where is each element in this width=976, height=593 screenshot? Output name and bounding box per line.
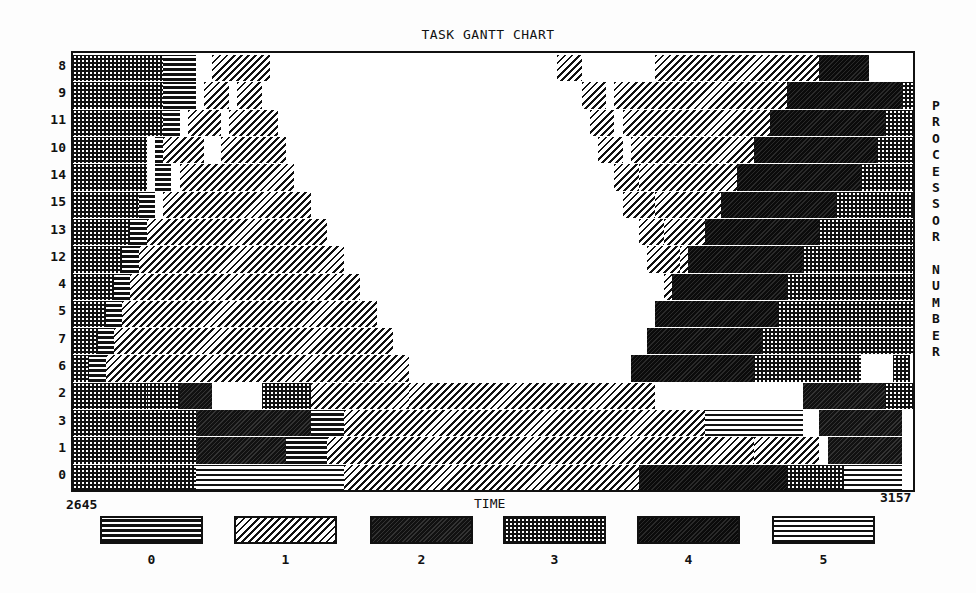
task-bar	[655, 192, 721, 218]
y-tick-label: 5	[22, 303, 66, 318]
task-bar	[409, 383, 655, 409]
task-bar	[787, 82, 902, 108]
y-axis-title-letter: R	[928, 114, 944, 130]
task-bar	[196, 465, 344, 491]
task-bar	[623, 110, 771, 136]
y-tick-label: 9	[22, 85, 66, 100]
task-bar	[614, 164, 639, 190]
task-bar	[212, 55, 269, 81]
legend-label: 5	[772, 552, 875, 567]
y-tick-label: 10	[22, 140, 66, 155]
plot-area	[71, 51, 915, 492]
y-tick-label: 13	[22, 222, 66, 237]
task-bar	[204, 82, 229, 108]
task-bar	[163, 82, 196, 108]
task-bar	[73, 192, 139, 218]
task-bar	[787, 274, 913, 300]
task-bar	[163, 192, 311, 218]
task-bar	[114, 328, 393, 354]
task-bar	[893, 355, 909, 381]
legend-swatch-5	[772, 516, 875, 544]
task-bar	[819, 55, 868, 81]
task-bar	[237, 82, 262, 108]
task-bar	[106, 355, 410, 381]
task-bar	[737, 164, 860, 190]
y-axis-title-letter: R	[928, 229, 944, 245]
task-bar	[73, 274, 114, 300]
y-axis-title-letter: S	[928, 196, 944, 212]
task-bar	[73, 55, 163, 81]
y-axis-title-letter: U	[928, 278, 944, 294]
y-tick-label: 11	[22, 112, 66, 127]
task-bar	[130, 274, 360, 300]
task-bar	[122, 301, 376, 327]
task-bar	[828, 437, 902, 463]
task-bar	[114, 274, 130, 300]
task-bar	[73, 301, 106, 327]
task-bar	[188, 110, 221, 136]
task-bar	[647, 246, 680, 272]
task-bar	[147, 383, 180, 409]
task-bar	[73, 164, 147, 190]
legend-label: 2	[370, 552, 473, 567]
task-bar	[73, 219, 130, 245]
x-axis-max-label: 3157	[880, 490, 911, 505]
task-bar	[705, 219, 820, 245]
task-bar	[73, 328, 98, 354]
y-axis-title-letter: C	[928, 147, 944, 163]
task-bar	[73, 383, 147, 409]
task-bar	[623, 192, 656, 218]
y-tick-label: 14	[22, 167, 66, 182]
task-bar	[311, 383, 409, 409]
task-bar	[130, 219, 146, 245]
task-bar	[262, 383, 311, 409]
chart-title: TASK GANTT CHART	[0, 27, 976, 42]
task-bar	[229, 110, 278, 136]
task-bar	[73, 246, 122, 272]
task-bar	[803, 383, 885, 409]
legend-swatch-2	[370, 516, 473, 544]
task-bar	[139, 246, 344, 272]
task-bar	[590, 110, 615, 136]
task-bar	[836, 192, 913, 218]
y-axis-title-letter: P	[928, 98, 944, 114]
task-bar	[73, 437, 196, 463]
task-bar	[98, 328, 114, 354]
task-bar	[655, 301, 778, 327]
task-bar	[754, 355, 861, 381]
y-axis-title-letter: N	[928, 262, 944, 278]
x-axis-min-label: 2645	[66, 497, 97, 512]
task-bar	[582, 82, 607, 108]
y-tick-label: 7	[22, 331, 66, 346]
task-bar	[705, 410, 803, 436]
task-bar	[688, 246, 803, 272]
y-tick-label: 8	[22, 58, 66, 73]
task-bar	[680, 246, 688, 272]
task-bar	[147, 219, 327, 245]
task-bar	[754, 137, 877, 163]
y-axis-title-letter: S	[928, 180, 944, 196]
task-bar	[787, 465, 844, 491]
y-tick-label: 0	[22, 467, 66, 482]
task-bar	[196, 410, 311, 436]
legend-label: 3	[503, 552, 606, 567]
y-tick-label: 1	[22, 440, 66, 455]
task-bar	[614, 82, 786, 108]
y-axis-title-letter: B	[928, 311, 944, 327]
legend-swatch-0	[100, 516, 203, 544]
task-bar	[885, 383, 913, 409]
y-tick-label: 4	[22, 276, 66, 291]
task-bar	[73, 82, 163, 108]
y-tick-label: 15	[22, 194, 66, 209]
task-bar	[639, 219, 664, 245]
task-bar	[639, 465, 787, 491]
task-bar	[647, 328, 762, 354]
task-bar	[286, 437, 327, 463]
task-bar	[631, 355, 754, 381]
y-axis-title: PROCESSOR NUMBER	[928, 98, 944, 361]
legend-swatch-4	[637, 516, 740, 544]
y-axis-title-letter: M	[928, 295, 944, 311]
y-axis-title-letter: E	[928, 164, 944, 180]
task-bar	[89, 355, 105, 381]
task-bar	[861, 164, 914, 190]
